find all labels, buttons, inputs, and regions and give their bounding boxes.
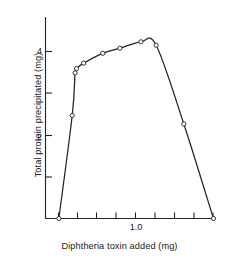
data-point	[101, 51, 105, 55]
x-tick-label-1: 1.0	[121, 222, 151, 232]
data-point	[211, 216, 215, 220]
y-tick-label-4: 4	[20, 46, 42, 56]
data-point-markers	[57, 40, 216, 221]
data-point	[82, 61, 86, 65]
data-point	[154, 43, 158, 47]
data-point	[139, 40, 143, 44]
data-point	[70, 113, 74, 117]
data-point	[57, 216, 61, 220]
y-tick-label-2: 2	[20, 132, 42, 142]
data-point	[182, 122, 186, 126]
y-tick-marks	[46, 52, 53, 178]
axis-spines	[46, 17, 217, 219]
data-point	[74, 67, 78, 71]
data-point	[73, 71, 77, 75]
chart-figure: Total protein precipitated (mg) Diphther…	[0, 0, 239, 258]
data-point	[118, 46, 122, 50]
x-tick-marks	[59, 213, 214, 219]
x-axis-title: Diphtheria toxin added (mg)	[0, 241, 239, 251]
